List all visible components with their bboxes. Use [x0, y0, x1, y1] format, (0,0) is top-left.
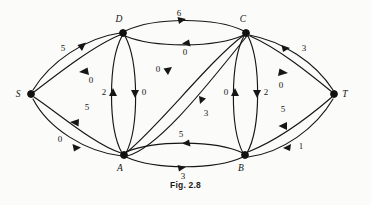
node-label-C: C: [240, 14, 247, 24]
node-D[interactable]: [120, 30, 127, 37]
graph-canvas: S D C T A B 5 0 0 5 6 0 2 0 0 2 0 3 3 5 …: [0, 0, 371, 205]
edge-label-T-C: 0: [279, 80, 284, 90]
edge-T-B: [248, 97, 332, 152]
edge-B-T: [248, 99, 333, 157]
edge-label-B-C: 0: [224, 87, 229, 97]
node-label-S: S: [16, 89, 21, 99]
edge-label-A-S: 5: [85, 102, 90, 112]
node-T[interactable]: [331, 91, 338, 98]
edge-label-B-A: 5: [179, 129, 184, 139]
edge-label-C-B: 2: [264, 87, 269, 97]
edge-label-B-T: 1: [299, 141, 304, 151]
edge-A-D: [109, 36, 122, 153]
node-A[interactable]: [121, 152, 128, 159]
node-label-A: A: [116, 163, 123, 173]
node-label-B: B: [238, 163, 244, 173]
edge-label-S-D: 5: [61, 43, 66, 53]
edge-label-A-D: 2: [102, 87, 107, 97]
edge-label-C-D: 0: [183, 47, 188, 57]
edge-label-D-A: 0: [142, 87, 147, 97]
edge-label-D-C: 6: [177, 8, 182, 18]
edge-label-T-B: 5: [281, 104, 286, 114]
figure-caption: Fig. 2.8: [0, 180, 371, 190]
figure-container: S D C T A B 5 0 0 5 6 0 2 0 0 2 0 3 3 5 …: [0, 0, 371, 205]
edge-T-C: [250, 36, 332, 92]
edge-C-T: [249, 35, 333, 90]
node-S[interactable]: [28, 91, 35, 98]
edge-D-A: [125, 36, 139, 153]
edge-label-A-C: 0: [156, 64, 161, 74]
edge-D-S: [34, 35, 120, 92]
edge-A-S: [34, 97, 121, 153]
node-B[interactable]: [242, 152, 249, 159]
edge-A-B: [126, 157, 243, 172]
edge-label-S-A: 0: [58, 134, 63, 144]
node-label-T: T: [342, 89, 348, 99]
edge-C-B: [247, 36, 261, 153]
edge-label-D-B: 3: [204, 108, 209, 118]
node-C[interactable]: [243, 30, 250, 37]
edge-B-A: [126, 140, 243, 154]
edge-D-C: [125, 17, 244, 31]
edge-label-C-T: 3: [302, 43, 307, 53]
edge-label-D-S: 0: [89, 75, 94, 85]
node-label-D: D: [115, 14, 123, 24]
edge-C-D: [125, 35, 244, 47]
